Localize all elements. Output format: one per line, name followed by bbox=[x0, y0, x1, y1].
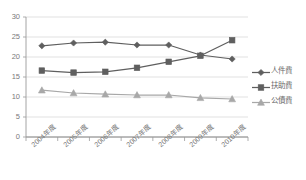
y-axis-tick-label: 25 bbox=[0, 33, 20, 41]
y-axis-tick-label: 5 bbox=[0, 113, 20, 121]
chart-legend: 人件費扶助費公債費 bbox=[252, 62, 306, 107]
legend-item[interactable]: 公債費 bbox=[252, 92, 306, 107]
legend-diamond-marker-icon bbox=[252, 64, 270, 75]
legend-item[interactable]: 扶助費 bbox=[252, 77, 306, 92]
y-axis-tick-label: 0 bbox=[0, 133, 20, 141]
legend-triangle-marker-icon bbox=[252, 94, 270, 105]
legend-item-label: 扶助費 bbox=[271, 79, 292, 90]
legend-item[interactable]: 人件費 bbox=[252, 62, 306, 77]
y-axis-tick-label: 15 bbox=[0, 73, 20, 81]
y-axis-tick-label: 20 bbox=[0, 53, 20, 61]
legend-square-marker-icon bbox=[252, 79, 270, 90]
chart-container: 302520151050 2004年度2005年度2006年度2007年度200… bbox=[0, 0, 306, 180]
y-axis-tick-label: 10 bbox=[0, 93, 20, 101]
y-axis-tick-label: 30 bbox=[0, 13, 20, 21]
legend-item-label: 人件費 bbox=[271, 64, 292, 75]
legend-item-label: 公債費 bbox=[271, 94, 292, 105]
